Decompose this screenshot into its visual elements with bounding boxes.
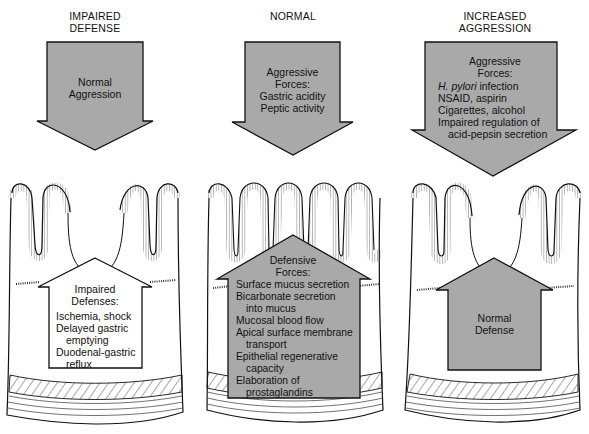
defense-item: Epithelial regenerative [236,351,360,363]
label-heading: Defenses: [45,295,145,307]
label-heading: Forces: [243,266,343,278]
defense-item-cont: capacity [236,363,360,375]
defense-item-cont: prostaglandins [236,387,360,399]
label-heading: Impaired [45,283,145,295]
defense-item: Bicarbonate secretion [236,291,360,303]
defense-item: Mucosal blood flow [236,315,360,327]
defense-item-cont: reflux [56,358,146,370]
label-heading: Defensive [243,254,343,266]
aggression-label: Aggressive Forces: Gastric acidity Pepti… [245,66,340,114]
defense-item-cont: into mucus [236,303,360,315]
aggression-item: Peptic activity [245,102,340,114]
label-line: Normal [448,312,541,324]
panel-title-normal: NORMAL [243,10,343,22]
title-line: IMPAIRED [45,10,145,22]
aggression-item: NSAID, aspirin [438,92,556,104]
aggression-label: Aggressive Forces: [440,55,550,79]
label-heading: Aggressive [440,55,550,67]
aggression-item: H. pylori infection [438,80,556,92]
defense-item: Delayed gastric [56,322,146,334]
defense-label: Impaired Defenses: [45,283,145,307]
title-line: INCREASED [440,10,550,22]
label-heading: Forces: [440,67,550,79]
label-line: Defense [448,324,541,336]
item-text: infection [477,80,519,92]
panel-title-impaired-defense: IMPAIRED DEFENSE [45,10,145,34]
aggression-items: H. pylori infection NSAID, aspirin Cigar… [438,80,556,140]
label-heading: Forces: [245,78,340,90]
label-line: Aggression [47,88,143,100]
title-line: NORMAL [243,10,343,22]
defense-item: Surface mucus secretion [236,279,360,291]
defense-label: Normal Defense [448,312,541,336]
aggression-item: Gastric acidity [245,90,340,102]
defense-label: Defensive Forces: [243,254,343,278]
label-heading: Aggressive [245,66,340,78]
label-line: Normal [47,76,143,88]
defense-item-cont: transport [236,339,360,351]
defense-items: Surface mucus secretion Bicarbonate secr… [236,279,360,399]
italic-term: H. pylori [438,80,477,92]
panel-title-increased-aggression: INCREASED AGGRESSION [440,10,550,34]
defense-item-cont: emptying [56,334,146,346]
defense-item: Ischemia, shock [56,310,146,322]
defense-items: Ischemia, shock Delayed gastric emptying… [56,310,146,370]
defense-item: Duodenal-gastric [56,346,146,358]
aggression-item-cont: acid-pepsin secretion [438,128,556,140]
aggression-label: Normal Aggression [47,76,143,100]
title-line: DEFENSE [45,22,145,34]
aggression-item: Impaired regulation of [438,116,556,128]
defense-item: Apical surface membrane [236,327,360,339]
aggression-item: Cigarettes, alcohol [438,104,556,116]
defense-item: Elaboration of [236,375,360,387]
title-line: AGGRESSION [440,22,550,34]
